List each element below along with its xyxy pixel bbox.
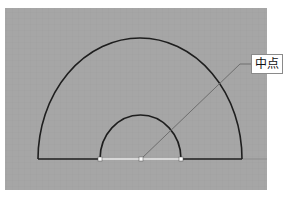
- drawing-canvas[interactable]: [0, 0, 291, 198]
- grip-right-endpoint[interactable]: [179, 157, 183, 161]
- grip-left-endpoint[interactable]: [98, 157, 102, 161]
- grip-midpoint[interactable]: [139, 157, 143, 161]
- snap-tooltip-midpoint: 中点: [251, 54, 283, 74]
- snap-tooltip-label: 中点: [255, 57, 279, 71]
- viewport-background: [5, 8, 267, 190]
